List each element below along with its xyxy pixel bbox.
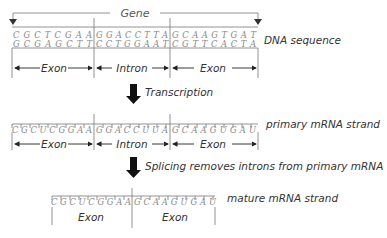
mature-mrna-label: mature mRNA strand [227,192,338,204]
arrow-down-icon [9,19,17,25]
pm-intron-label: Intron [116,138,147,150]
gene-bracket: Gene [9,7,262,25]
thick-arrow-down-icon [126,157,141,178]
pm-exon2-label: Exon [200,138,226,150]
arrow-down-icon [254,19,262,25]
pm-exon2-seq: G C A A G U G A U [172,125,257,135]
dna-intron-label: Intron [116,62,147,74]
thick-arrow-down-icon [126,84,141,104]
dna-sequence-label: DNA sequence [264,34,341,46]
dna-bottom-intron: C C T G G A A T [96,39,169,49]
gene-expression-diagram: Gene C G C T C G A A G G A C C T T A G C… [0,0,387,238]
transcription-label: Transcription [145,86,213,98]
pm-exon1-seq: C G C U C G G A A [12,125,92,135]
primary-mrna-label: primary mRNA strand [265,118,380,130]
transcription-step: Transcription [126,84,213,104]
mm-exon1-seq: C G C U C G G A A [51,197,131,207]
dna-bottom-exon2: C G T T C A C T A [172,39,256,49]
dna-bottom-exon1: G C G A G C T T [13,39,93,49]
mm-exon2-seq: G C A A G U G A U [134,197,217,207]
mature-mrna: C G C U C G G A A G C A A G U G A U matu… [51,188,338,228]
gene-label: Gene [120,7,149,20]
pm-intron-seq: G G A C C U U A [96,125,168,135]
dna-exon1-label: Exon [41,62,67,74]
mm-exon1-label: Exon [78,211,104,223]
pm-exon1-label: Exon [41,138,67,150]
mm-exon2-label: Exon [162,211,188,223]
dna-segments: Exon Intron Exon [15,62,256,74]
dna-exon2-label: Exon [200,62,226,74]
primary-mrna: C G C U C G G A A G G A C C U U A G C A … [12,114,380,150]
splicing-step: Splicing removes introns from primary mR… [126,157,383,178]
splicing-label: Splicing removes introns from primary mR… [145,160,383,172]
